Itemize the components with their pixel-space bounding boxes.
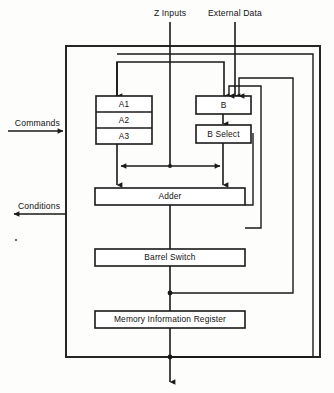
register-a2-label: A2: [119, 116, 130, 125]
register-a3-label: A3: [119, 132, 130, 141]
memory-information-register-label: Memory Information Register: [114, 314, 226, 324]
operand-bus-junction: [168, 164, 172, 168]
barrel-switch-label: Barrel Switch: [144, 252, 195, 262]
datapath-diagram: Z Inputs External Data A1 A2 A3 B B Sele…: [0, 0, 334, 393]
block-diagram-canvas: Z Inputs External Data A1 A2 A3 B B Sele…: [0, 0, 334, 393]
register-a1-label: A1: [119, 100, 130, 109]
external-data-label: External Data: [208, 8, 262, 18]
commands-label: Commands: [15, 118, 60, 128]
b-register-label: B: [221, 100, 227, 110]
b-select-label: B Select: [207, 129, 240, 139]
conditions-label: Conditions: [18, 201, 60, 211]
feedback-path-adder-to-b-select: [245, 133, 253, 205]
scan-artifact-dot: [15, 239, 17, 241]
adder-label: Adder: [158, 191, 181, 201]
z-inputs-label: Z Inputs: [154, 8, 186, 18]
